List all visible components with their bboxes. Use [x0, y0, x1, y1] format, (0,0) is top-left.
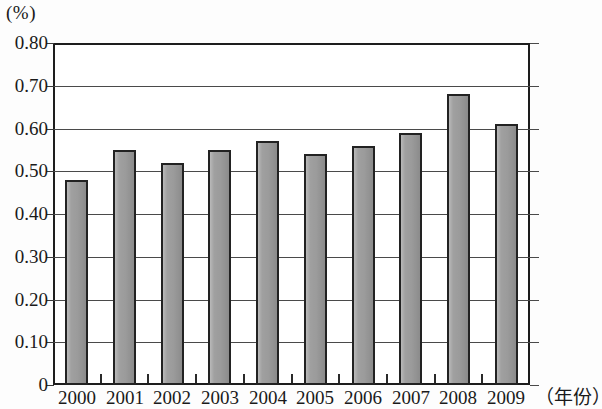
x-axis-tick: [195, 374, 197, 383]
y-axis-tick-right: [530, 257, 539, 258]
x-axis-tick-label: 2000: [53, 387, 101, 408]
x-axis-tick-label: 2007: [387, 387, 435, 408]
y-axis-tick-label: 0.40: [0, 204, 48, 223]
bar-chart-figure: (%) 0.800.700.600.500.400.300.200.100 20…: [0, 0, 602, 409]
y-axis-tick-right: [530, 300, 539, 301]
x-axis-tick: [386, 374, 388, 383]
y-axis-tick-label: 0.70: [0, 76, 48, 95]
bar: [495, 124, 518, 385]
y-axis-tick-label-text: 0: [2, 375, 48, 394]
x-axis-tick-label: 2006: [339, 387, 387, 408]
gridline: [53, 86, 530, 87]
x-axis-tick: [147, 374, 149, 383]
y-axis-tick-label-text: 0.40: [2, 204, 48, 223]
x-axis-tick: [481, 374, 483, 383]
y-axis-tick-label-text: 0.70: [2, 76, 48, 95]
x-axis-tick-label: 2001: [101, 387, 149, 408]
y-axis-tick-label: 0.80: [0, 33, 48, 52]
y-axis-tick-label: 0.20: [0, 290, 48, 309]
y-axis-tick-right: [530, 43, 539, 44]
bar: [113, 150, 136, 385]
y-axis-tick-label: 0.10: [0, 332, 48, 351]
y-axis-unit-label: (%): [6, 2, 36, 24]
x-axis-tick-label: 2003: [196, 387, 244, 408]
x-axis-tick: [100, 374, 102, 383]
y-axis-tick-label-text: 0.80: [2, 33, 48, 52]
y-axis-tick-label-text: 0.20: [2, 290, 48, 309]
bar: [65, 180, 88, 385]
y-axis-tick-label-text: 0.50: [2, 161, 48, 180]
y-axis-tick-right: [530, 171, 539, 172]
x-axis-tick: [338, 374, 340, 383]
x-axis-tick: [434, 374, 436, 383]
bar: [352, 146, 375, 385]
y-axis-tick-label-text: 0.10: [2, 332, 48, 351]
x-axis-tick-label: 2008: [434, 387, 482, 408]
y-axis-tick-label-text: 0.30: [2, 247, 48, 266]
bar: [208, 150, 231, 385]
x-axis-tick: [243, 374, 245, 383]
x-axis-tick-label: 2005: [291, 387, 339, 408]
bar: [399, 133, 422, 385]
bar: [161, 163, 184, 385]
x-axis-tick-label: 2004: [244, 387, 292, 408]
y-axis-tick-right: [530, 129, 539, 130]
y-axis-tick-right: [530, 214, 539, 215]
bar: [447, 94, 470, 385]
y-axis-tick-label: 0.50: [0, 161, 48, 180]
x-axis-tick: [291, 374, 293, 383]
y-axis-tick-label: 0.30: [0, 247, 48, 266]
y-axis-tick-label-text: 0.60: [2, 119, 48, 138]
x-axis-tick-label: 2009: [482, 387, 530, 408]
y-axis-tick-label: 0: [0, 375, 48, 394]
y-axis-tick-label: 0.60: [0, 119, 48, 138]
y-axis-tick-right: [530, 86, 539, 87]
bar: [256, 141, 279, 385]
x-axis-title: （年份）: [535, 387, 602, 408]
bar: [304, 154, 327, 385]
y-axis-tick-right: [530, 342, 539, 343]
x-axis-tick-label: 2002: [148, 387, 196, 408]
